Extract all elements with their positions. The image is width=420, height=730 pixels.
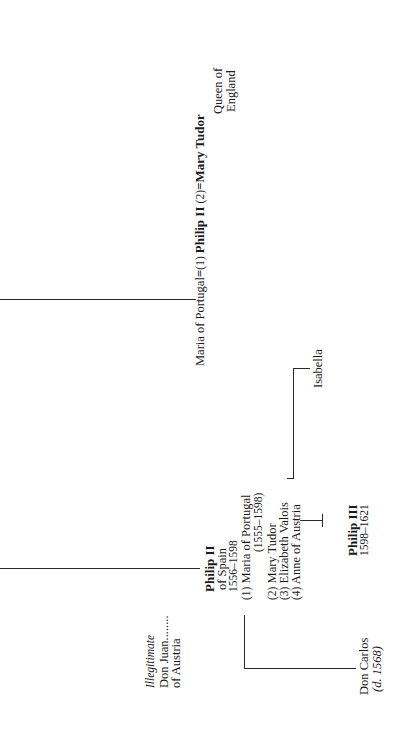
isabella-branch-vertical: [293, 368, 294, 479]
don-carlos-branch-vertical: [244, 615, 245, 669]
dotted-leader: ........: [157, 615, 171, 640]
descent-line-to-marriage: [0, 299, 196, 300]
descent-line-to-philip-ii: [0, 568, 200, 569]
isabella-branch-horizontal-upper: [293, 368, 310, 369]
second-wife-title-line-2: England: [225, 70, 238, 112]
don-carlos-name: Don Carlos: [358, 638, 371, 695]
illegitimate-label: Illegitimate: [145, 635, 157, 688]
first-wife-name: Maria of Portugal: [193, 277, 207, 366]
philip-iii-branch-vertical: [322, 514, 323, 527]
philip-iii-reign: 1598–1621: [359, 504, 371, 556]
isabella-name: Isabella: [312, 349, 325, 388]
marriage-line: Maria of Portugal=(1) Philip II (2)=Mary…: [193, 114, 207, 366]
second-wife-name: Mary Tudor: [192, 114, 207, 182]
wife-4: (4) Anne of Austria: [290, 504, 303, 600]
wife-1-dates: (1555–1598): [253, 493, 265, 552]
don-carlos-branch-horizontal: [244, 668, 356, 669]
wife-1: (1) Maria of Portugal: [240, 495, 253, 600]
don-juan-of-austria: of Austria: [170, 638, 183, 688]
husband-name: Philip II: [192, 207, 207, 254]
don-carlos-death: (d. 1568): [371, 646, 384, 692]
philip-ii-reign: 1556–1598: [228, 540, 240, 592]
philip-iii-branch-horizontal: [300, 520, 322, 521]
second-wife-title-line-1: Queen of: [212, 68, 225, 114]
